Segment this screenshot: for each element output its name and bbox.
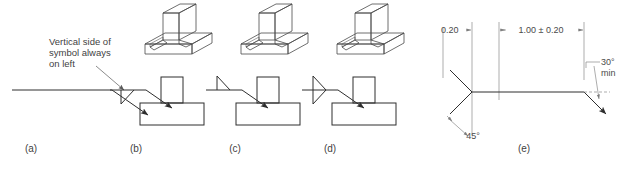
panel-d: (d) — [302, 4, 404, 154]
panel-c: (c) — [206, 4, 308, 154]
panel-e-angle-30-note: min — [601, 68, 616, 78]
panel-b-weld-symbol — [110, 90, 172, 108]
panel-e-angle-45-label: 45° — [466, 131, 480, 141]
panel-c-section-view — [236, 77, 300, 125]
panel-c-caption: (c) — [229, 143, 241, 154]
panel-e-dim-reference-label: 1.00 ± 0.20 — [519, 25, 564, 35]
panel-e-dim-tail-label: 0.20 — [441, 25, 459, 35]
panel-d-section-view — [332, 77, 396, 125]
panel-e-dim-tail: 0.20 — [441, 25, 471, 35]
panel-e-dim-reference: 1.00 ± 0.20 — [500, 25, 583, 35]
panel-e-reference-geometry — [450, 70, 610, 114]
panel-b-isometric-joint — [145, 4, 212, 54]
panel-a-leader-line — [12, 90, 148, 115]
panel-e-extension-lines — [443, 22, 584, 135]
panel-d-caption: (d) — [324, 143, 336, 154]
annotation-line-3: on left — [49, 58, 75, 69]
annotation-vertical-side: Vertical side of symbol always on left — [49, 36, 124, 90]
panel-c-fillet-triangle — [217, 76, 230, 90]
panel-d-fillet-triangle-upper — [313, 76, 326, 90]
annotation-line-1: Vertical side of — [49, 36, 111, 47]
panel-b: (b) — [110, 4, 212, 154]
panel-e-angle-30-label: 30° — [601, 57, 615, 67]
panel-e: 0.20 1.00 ± 0.20 45° 30° min — [441, 22, 616, 154]
panel-a-caption: (a) — [25, 143, 37, 154]
panel-b-section-view — [140, 77, 204, 125]
panel-e-caption: (e) — [518, 143, 530, 154]
panel-c-isometric-joint — [241, 4, 308, 54]
panel-b-caption: (b) — [130, 143, 142, 154]
annotation-line-2: symbol always — [49, 47, 111, 58]
panel-a: (a) — [12, 90, 148, 154]
welding-symbol-figure: (a) Vertical side of symbol always on le… — [0, 0, 621, 170]
annotation-pointer-line — [96, 66, 124, 90]
panel-e-angle-30: 30° min — [586, 57, 616, 99]
panel-d-isometric-joint — [337, 4, 404, 54]
panel-e-angle-45: 45° — [447, 116, 480, 141]
panel-d-fillet-triangle-lower — [313, 90, 326, 104]
